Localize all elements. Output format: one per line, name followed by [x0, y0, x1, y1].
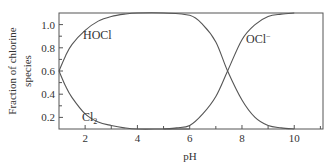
y-tick-label: 0.2	[41, 111, 55, 123]
y-axis-label-line2: species	[21, 55, 33, 87]
x-tick-label: 10	[289, 132, 301, 144]
cl2-label-main: Cl	[82, 110, 94, 124]
ocl-label: OCl−	[246, 32, 271, 46]
y-tick-label: 0.6	[41, 65, 55, 77]
curve-ocl	[164, 13, 295, 129]
x-tick-label: 2	[82, 132, 88, 144]
y-tick-label: 1.0	[41, 19, 55, 31]
x-tick-label: 4	[135, 132, 141, 144]
cl2-label-sub: 2	[93, 117, 97, 126]
y-tick-label: 0.4	[41, 88, 55, 100]
x-tick-label: 6	[187, 132, 193, 144]
cl2-label: Cl2	[82, 110, 97, 126]
x-axis-label: pH	[183, 150, 197, 162]
chlorine-species-chart: 2468100.20.40.60.81.0 Fraction of chlori…	[0, 0, 335, 167]
curve-cl2	[59, 71, 190, 129]
y-axis-label-line1: Fraction of chlorine	[6, 27, 18, 114]
x-tick-label: 8	[239, 132, 245, 144]
y-tick-label: 0.8	[41, 42, 55, 54]
ocl-label-sup: −	[266, 32, 271, 41]
hocl-label: HOCl	[83, 28, 112, 42]
ocl-label-main: OCl	[246, 32, 267, 46]
